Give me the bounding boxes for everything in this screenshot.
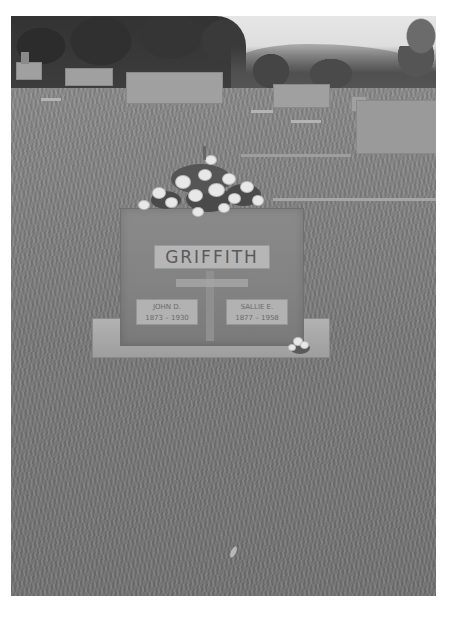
flat-marker bbox=[251, 110, 273, 113]
left-plate-name: JOHN D. bbox=[137, 302, 197, 313]
background-headstone bbox=[65, 68, 113, 86]
background-headstone bbox=[21, 52, 29, 64]
background-headstone bbox=[273, 84, 330, 108]
left-name-plate: JOHN D. 1873 – 1930 bbox=[136, 299, 198, 325]
small-flower-bouquet bbox=[286, 334, 316, 356]
tree-top-right bbox=[396, 16, 436, 66]
right-plate-years: 1877 – 1958 bbox=[227, 313, 287, 324]
ribbon-emblem bbox=[176, 279, 248, 287]
background-headstone bbox=[16, 62, 42, 80]
cemetery-photo: GRIFFITH JOHN D. 1873 – 1930 SALLIE E. 1… bbox=[11, 16, 436, 596]
flat-marker bbox=[273, 198, 436, 201]
background-headstone bbox=[356, 100, 436, 154]
headstone: GRIFFITH JOHN D. 1873 – 1930 SALLIE E. 1… bbox=[120, 208, 304, 346]
flat-marker bbox=[291, 120, 321, 123]
family-name-plate: GRIFFITH bbox=[154, 245, 270, 269]
right-plate-name: SALLIE E. bbox=[227, 302, 287, 313]
right-name-plate: SALLIE E. 1877 – 1958 bbox=[226, 299, 288, 325]
flower-arrangement bbox=[131, 146, 276, 226]
background-headstone bbox=[126, 72, 223, 104]
flat-marker bbox=[41, 98, 61, 101]
left-plate-years: 1873 – 1930 bbox=[137, 313, 197, 324]
